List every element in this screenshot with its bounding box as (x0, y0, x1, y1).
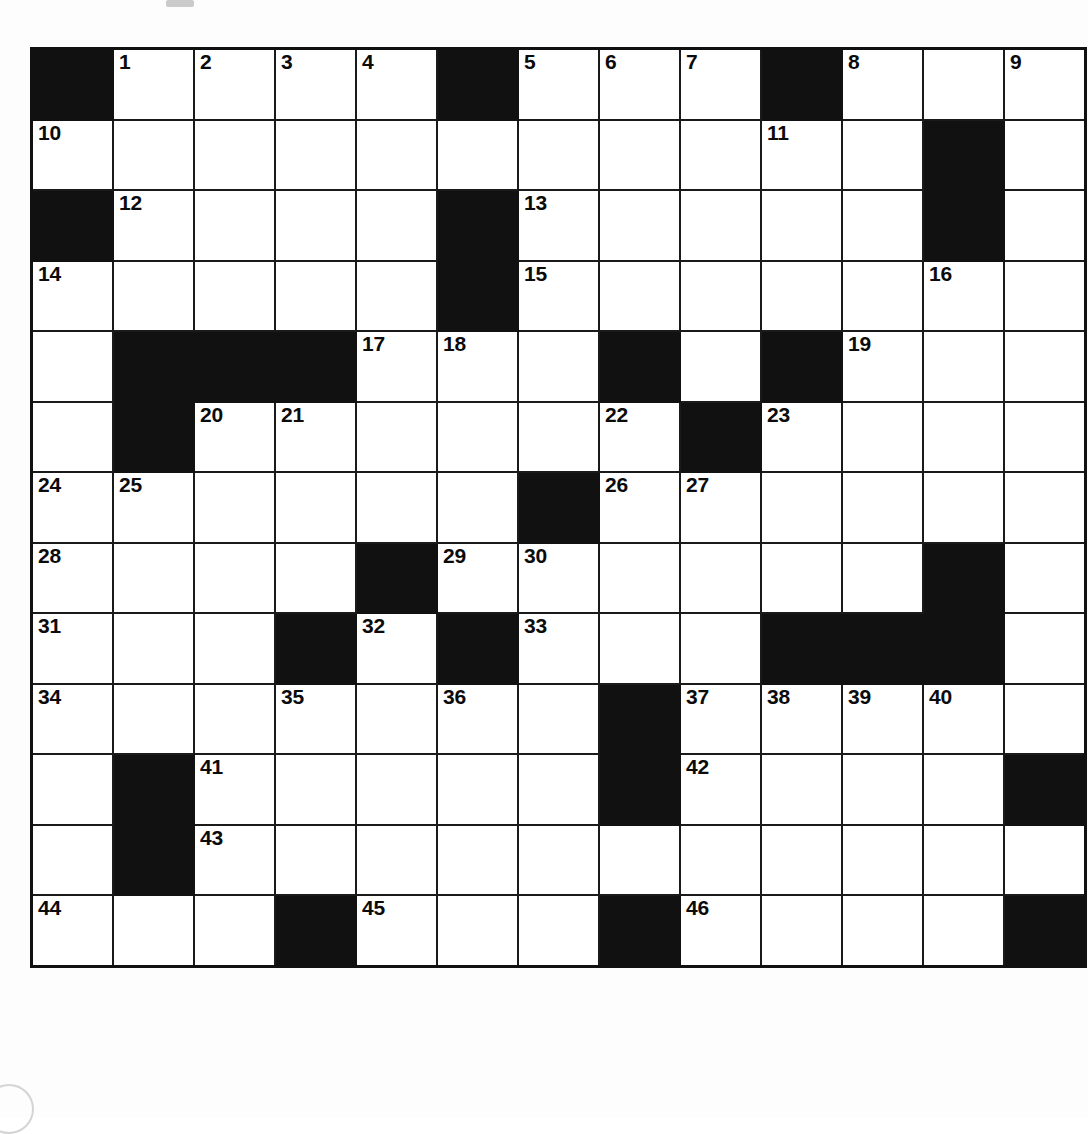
crossword-cell[interactable] (275, 472, 356, 543)
crossword-cell[interactable]: 34 (32, 684, 114, 755)
crossword-cell[interactable] (518, 684, 599, 755)
crossword-cell[interactable]: 5 (518, 49, 599, 120)
crossword-cell[interactable]: 4 (356, 49, 437, 120)
crossword-cell[interactable] (923, 331, 1004, 402)
crossword-cell[interactable] (599, 190, 680, 261)
crossword-cell[interactable]: 29 (437, 543, 518, 614)
crossword-cell[interactable] (32, 331, 114, 402)
crossword-cell[interactable]: 44 (32, 895, 114, 966)
crossword-cell[interactable]: 15 (518, 261, 599, 332)
crossword-cell[interactable] (761, 825, 842, 896)
crossword-cell[interactable] (194, 895, 275, 966)
crossword-cell[interactable]: 33 (518, 613, 599, 684)
crossword-cell[interactable] (1004, 190, 1086, 261)
crossword-cell[interactable] (923, 472, 1004, 543)
crossword-cell[interactable] (356, 190, 437, 261)
crossword-cell[interactable] (680, 261, 761, 332)
crossword-cell[interactable] (842, 472, 923, 543)
crossword-cell[interactable] (437, 825, 518, 896)
crossword-cell[interactable]: 8 (842, 49, 923, 120)
crossword-cell[interactable]: 46 (680, 895, 761, 966)
crossword-cell[interactable] (356, 825, 437, 896)
crossword-cell[interactable] (761, 895, 842, 966)
crossword-cell[interactable]: 38 (761, 684, 842, 755)
crossword-cell[interactable]: 32 (356, 613, 437, 684)
crossword-cell[interactable] (680, 825, 761, 896)
crossword-cell[interactable] (113, 120, 194, 191)
crossword-cell[interactable] (113, 543, 194, 614)
crossword-cell[interactable] (842, 825, 923, 896)
crossword-cell[interactable]: 28 (32, 543, 114, 614)
crossword-cell[interactable]: 41 (194, 754, 275, 825)
crossword-cell[interactable] (923, 49, 1004, 120)
crossword-cell[interactable] (761, 261, 842, 332)
crossword-cell[interactable] (194, 684, 275, 755)
crossword-cell[interactable] (680, 613, 761, 684)
crossword-cell[interactable]: 30 (518, 543, 599, 614)
crossword-cell[interactable]: 11 (761, 120, 842, 191)
crossword-cell[interactable] (1004, 261, 1086, 332)
crossword-cell[interactable]: 22 (599, 402, 680, 473)
crossword-cell[interactable] (842, 120, 923, 191)
crossword-cell[interactable] (356, 684, 437, 755)
crossword-cell[interactable] (275, 190, 356, 261)
crossword-grid[interactable]: 1234567891011121314151617181920212223242… (30, 47, 1087, 968)
crossword-cell[interactable] (194, 190, 275, 261)
crossword-cell[interactable] (518, 331, 599, 402)
crossword-cell[interactable]: 31 (32, 613, 114, 684)
crossword-cell[interactable] (113, 613, 194, 684)
crossword-cell[interactable] (113, 261, 194, 332)
crossword-cell[interactable]: 25 (113, 472, 194, 543)
crossword-cell[interactable]: 3 (275, 49, 356, 120)
crossword-cell[interactable] (842, 261, 923, 332)
crossword-cell[interactable] (842, 754, 923, 825)
crossword-cell[interactable]: 17 (356, 331, 437, 402)
crossword-cell[interactable] (437, 472, 518, 543)
crossword-cell[interactable] (1004, 331, 1086, 402)
crossword-cell[interactable] (680, 120, 761, 191)
crossword-cell[interactable] (680, 543, 761, 614)
crossword-cell[interactable]: 7 (680, 49, 761, 120)
crossword-cell[interactable]: 45 (356, 895, 437, 966)
crossword-cell[interactable] (842, 190, 923, 261)
crossword-cell[interactable] (437, 402, 518, 473)
crossword-cell[interactable] (194, 472, 275, 543)
crossword-cell[interactable] (356, 754, 437, 825)
crossword-cell[interactable] (599, 825, 680, 896)
crossword-cell[interactable] (923, 895, 1004, 966)
crossword-cell[interactable]: 21 (275, 402, 356, 473)
crossword-cell[interactable]: 42 (680, 754, 761, 825)
crossword-cell[interactable] (761, 190, 842, 261)
crossword-cell[interactable] (32, 754, 114, 825)
crossword-cell[interactable] (437, 895, 518, 966)
crossword-cell[interactable] (518, 402, 599, 473)
crossword-cell[interactable]: 35 (275, 684, 356, 755)
crossword-cell[interactable]: 12 (113, 190, 194, 261)
crossword-cell[interactable] (275, 261, 356, 332)
crossword-cell[interactable]: 1 (113, 49, 194, 120)
crossword-cell[interactable] (923, 754, 1004, 825)
crossword-cell[interactable]: 2 (194, 49, 275, 120)
crossword-cell[interactable] (842, 543, 923, 614)
crossword-cell[interactable] (275, 754, 356, 825)
crossword-cell[interactable]: 24 (32, 472, 114, 543)
crossword-cell[interactable] (1004, 543, 1086, 614)
crossword-cell[interactable] (761, 754, 842, 825)
crossword-cell[interactable]: 23 (761, 402, 842, 473)
crossword-cell[interactable]: 10 (32, 120, 114, 191)
crossword-cell[interactable] (518, 825, 599, 896)
crossword-cell[interactable]: 6 (599, 49, 680, 120)
crossword-cell[interactable] (437, 120, 518, 191)
crossword-cell[interactable] (761, 472, 842, 543)
crossword-cell[interactable] (1004, 613, 1086, 684)
crossword-cell[interactable] (194, 261, 275, 332)
crossword-cell[interactable]: 16 (923, 261, 1004, 332)
crossword-cell[interactable]: 20 (194, 402, 275, 473)
crossword-cell[interactable]: 37 (680, 684, 761, 755)
crossword-cell[interactable] (1004, 825, 1086, 896)
crossword-cell[interactable] (356, 472, 437, 543)
crossword-cell[interactable] (1004, 684, 1086, 755)
crossword-cell[interactable] (356, 261, 437, 332)
crossword-cell[interactable] (275, 543, 356, 614)
crossword-cell[interactable] (599, 261, 680, 332)
